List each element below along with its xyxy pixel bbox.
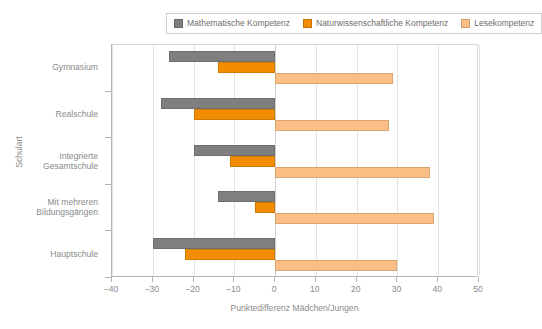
y-axis-tick-label: Realschule xyxy=(0,109,98,119)
bar xyxy=(161,98,275,109)
legend-label: Lesekompetenz xyxy=(474,19,534,28)
y-axis-labels: GymnasiumRealschuleIntegrierteGesamtschu… xyxy=(0,44,106,277)
bar xyxy=(153,238,275,249)
x-axis-title: Punktedifferenz Mädchen/Jungen xyxy=(111,303,478,313)
bar xyxy=(169,51,275,62)
x-axis-tick-label: −40 xyxy=(104,284,119,294)
x-axis-tick-label: 50 xyxy=(473,284,483,294)
bar xyxy=(218,62,275,73)
x-axis-ticks xyxy=(111,277,478,283)
x-axis-tick xyxy=(356,277,357,282)
bar xyxy=(275,167,430,178)
bar xyxy=(275,73,393,84)
x-axis-labels: −40−30−20−1001020304050 xyxy=(111,284,478,296)
x-axis-tick xyxy=(478,277,479,282)
legend-item-mathematische-kompetenz[interactable]: Mathematische Kompetenz xyxy=(174,19,290,28)
x-axis-tick xyxy=(233,277,234,282)
x-axis-tick-label: −20 xyxy=(185,284,200,294)
x-axis-tick xyxy=(111,277,112,282)
x-axis-tick-label: 40 xyxy=(432,284,442,294)
legend-label: Mathematische Kompetenz xyxy=(187,19,290,28)
plot-area xyxy=(111,44,478,277)
bar xyxy=(230,156,275,167)
legend-item-lesekompetenz[interactable]: Lesekompetenz xyxy=(461,19,534,28)
x-axis-tick xyxy=(396,277,397,282)
chart-legend: Mathematische Kompetenz Naturwissenschaf… xyxy=(166,13,542,34)
gridline xyxy=(397,45,398,276)
x-axis-tick xyxy=(315,277,316,282)
legend-swatch-icon xyxy=(461,19,470,28)
x-axis-tick xyxy=(437,277,438,282)
x-axis-tick-label: −30 xyxy=(144,284,159,294)
bar xyxy=(255,202,275,213)
y-axis-tick-label: Gymnasium xyxy=(0,62,98,72)
gridline xyxy=(438,45,439,276)
gridline xyxy=(112,45,113,276)
bar xyxy=(194,145,276,156)
x-axis-tick-label: 10 xyxy=(310,284,320,294)
legend-item-naturwissenschaftliche-kompetenz[interactable]: Naturwissenschaftliche Kompetenz xyxy=(303,19,448,28)
legend-swatch-icon xyxy=(174,19,183,28)
legend-swatch-icon xyxy=(303,19,312,28)
x-axis-tick-label: −10 xyxy=(226,284,241,294)
bar xyxy=(185,249,275,260)
x-axis-tick-label: 30 xyxy=(392,284,402,294)
x-axis-tick xyxy=(274,277,275,282)
x-axis-tick-label: 20 xyxy=(351,284,361,294)
x-axis-tick xyxy=(193,277,194,282)
gridline xyxy=(479,45,480,276)
bar xyxy=(194,109,276,120)
bar xyxy=(275,213,434,224)
legend-label: Naturwissenschaftliche Kompetenz xyxy=(316,19,448,28)
bar xyxy=(275,120,389,131)
bar xyxy=(218,191,275,202)
bar xyxy=(275,260,397,271)
y-axis-tick-label: Mit mehrerenBildungsgängen xyxy=(0,197,98,217)
x-axis-tick xyxy=(152,277,153,282)
y-axis-tick-label: Hauptschule xyxy=(0,249,98,259)
x-axis-tick-label: 0 xyxy=(272,284,277,294)
y-axis-tick-label: IntegrierteGesamtschule xyxy=(0,151,98,171)
